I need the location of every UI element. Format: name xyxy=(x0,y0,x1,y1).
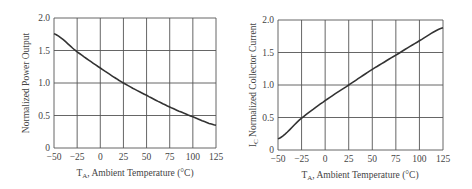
y-tick-label: 0.5 xyxy=(38,111,50,121)
x-axis-ticks: −50−250255075100125 xyxy=(47,152,224,162)
collector-current-curve xyxy=(278,28,443,139)
x-tick-label: −25 xyxy=(70,152,85,162)
collector-current-chart: −50−250255075100125 00.51.01.52.0 TA, Am… xyxy=(236,0,472,189)
x-tick-label: 75 xyxy=(165,152,175,162)
y-tick-label: 1.5 xyxy=(38,46,50,56)
x-tick-label: 125 xyxy=(209,152,224,162)
x-tick-label: 0 xyxy=(98,152,103,162)
collector-current-plot: −50−250255075100125 00.51.01.52.0 TA, Am… xyxy=(236,0,472,189)
power-output-curve xyxy=(54,34,216,126)
y-axis-ticks: 00.51.01.52.0 xyxy=(262,15,274,155)
x-tick-label: 50 xyxy=(142,152,152,162)
y-tick-label: 0 xyxy=(45,143,50,153)
y-axis-label: IC Normalized Collector Current xyxy=(248,23,260,148)
x-tick-label: 50 xyxy=(368,154,378,164)
y-tick-label: 2.0 xyxy=(38,13,50,23)
y-tick-label: 1.0 xyxy=(38,78,50,88)
y-tick-label: 2.0 xyxy=(262,15,274,25)
x-axis-label: TA, Ambient Temperature (°C) xyxy=(301,170,418,182)
x-tick-label: 0 xyxy=(323,154,328,164)
y-tick-label: 0.5 xyxy=(262,113,274,123)
x-axis-ticks: −50−250255075100125 xyxy=(271,154,451,164)
x-tick-label: 75 xyxy=(391,154,401,164)
x-tick-label: 25 xyxy=(119,152,129,162)
x-tick-label: −25 xyxy=(294,154,309,164)
x-tick-label: −50 xyxy=(47,152,62,162)
power-output-chart: −50−250255075100125 00.51.01.52.0 TA, Am… xyxy=(0,0,236,189)
x-tick-label: 25 xyxy=(344,154,354,164)
grid xyxy=(54,18,216,148)
y-axis-label: Normalized Power Output xyxy=(21,33,31,134)
x-tick-label: −50 xyxy=(271,154,286,164)
y-axis-ticks: 00.51.01.52.0 xyxy=(38,13,50,153)
x-axis-label: TA, Ambient Temperature (°C) xyxy=(76,168,193,180)
grid xyxy=(278,20,443,150)
y-tick-label: 0 xyxy=(269,145,274,155)
y-tick-label: 1.5 xyxy=(262,48,274,58)
x-tick-label: 100 xyxy=(412,154,427,164)
x-tick-label: 100 xyxy=(186,152,201,162)
power-output-plot: −50−250255075100125 00.51.01.52.0 TA, Am… xyxy=(0,0,236,189)
y-tick-label: 1.0 xyxy=(262,80,274,90)
x-tick-label: 125 xyxy=(436,154,451,164)
